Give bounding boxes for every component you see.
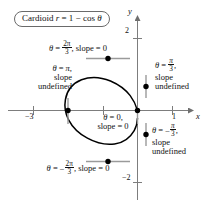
- ann-pi-line3: undefined: [6, 82, 72, 91]
- ann-negpi3-theta: θ: [152, 125, 156, 135]
- ann-negpi3-equals: =: [158, 125, 163, 135]
- ann-negpi3-comma: ,: [176, 125, 178, 135]
- ann-top-fraction: 2π 3: [62, 40, 71, 56]
- ann-bottom-theta: θ: [47, 163, 51, 173]
- ann-bottom-fraction: 2π 3: [65, 160, 74, 176]
- point-pi-over-3: [143, 84, 148, 89]
- ann-pi3-comma: ,: [174, 60, 176, 70]
- annotation-theta-pi: θ = π, slope undefined: [6, 64, 72, 91]
- y-tick-label-neg2: −2: [122, 174, 131, 182]
- ann-pi3-equals: =: [161, 60, 166, 70]
- title-one: 1: [69, 13, 74, 23]
- ann-bottom-rest: , slope = 0: [74, 163, 110, 173]
- y-axis-label: y: [128, 7, 132, 16]
- ann-top-equals: =: [55, 43, 60, 53]
- annotation-theta-neg-2pi-over-3: θ = − 2π 3 , slope = 0: [24, 160, 132, 176]
- ann-pi3-theta: θ: [155, 60, 159, 70]
- point-2pi-over-3: [105, 56, 110, 61]
- ann-negpi3-line3: undefined: [152, 147, 207, 156]
- title-var-r: r: [56, 13, 60, 23]
- title-theta: θ: [97, 13, 101, 23]
- y-tick-label-2: 2: [125, 27, 129, 35]
- ann-zero-line2: slope = 0: [82, 122, 144, 131]
- x-tick-label-neg3: −3: [25, 113, 34, 121]
- point-neg-pi-over-3: [143, 132, 148, 137]
- ann-pi3-line1: θ = π 3 ,: [155, 57, 207, 73]
- title-minus: −: [76, 13, 81, 23]
- x-tick-label-1: 1: [172, 113, 176, 121]
- title-cos: cos: [83, 13, 95, 23]
- cardioid-figure: Cardioid r = 1 − cos θ θ = 2π 3 , slope …: [0, 0, 207, 209]
- annotation-theta-neg-pi-over-3: θ = − π 3 , slope undefined: [152, 122, 207, 156]
- annotation-theta-pi-over-3: θ = π 3 , slope undefined: [155, 57, 207, 91]
- title-equals: =: [62, 13, 67, 23]
- title-word: Cardioid: [22, 13, 54, 23]
- ann-bottom-denominator: 3: [65, 168, 74, 175]
- annotation-theta-2pi-over-3: θ = 2π 3 , slope = 0: [26, 40, 130, 56]
- ann-top-denominator: 3: [62, 48, 71, 55]
- ann-pi3-line3: undefined: [155, 82, 207, 91]
- x-axis-label: x: [196, 112, 200, 121]
- ann-top-theta: θ: [49, 43, 53, 53]
- cardioid-plot: [0, 0, 207, 209]
- ann-bottom-equals: =: [53, 163, 58, 173]
- ann-top-rest: , slope = 0: [72, 43, 108, 53]
- figure-title-box: Cardioid r = 1 − cos θ: [14, 11, 110, 27]
- ann-negpi3-line1: θ = − π 3 ,: [152, 122, 207, 138]
- point-pi: [65, 108, 70, 113]
- annotation-theta-zero: θ = 0, slope = 0: [82, 113, 144, 131]
